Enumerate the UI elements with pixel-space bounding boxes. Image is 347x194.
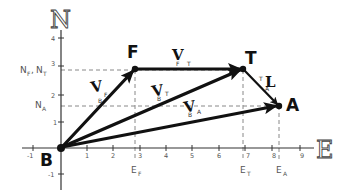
tick-label: 3 [51,60,55,68]
tick-label: 6 [217,152,221,160]
tick-label: 4 [164,152,168,160]
label-l-ta: L T A [258,73,276,92]
svg-text:T: T [42,70,47,77]
tick-label: 1 [85,152,89,160]
point-f-dot [132,66,138,72]
tick-label: 8 [272,152,276,160]
vector-bt-arrow [62,70,240,147]
tick-label: 4 [51,35,55,43]
svg-text:N: N [35,100,42,110]
point-f-label: F [127,42,139,62]
label-v-ba: V B A [181,97,202,118]
svg-text:A: A [283,170,288,177]
svg-text:T: T [258,75,263,82]
label-v-ft: V F T [171,46,191,67]
svg-text:E: E [131,165,137,175]
svg-text:E: E [240,165,246,175]
point-a-dot [276,103,282,109]
svg-text:N: N [36,65,43,75]
tick-label: 9 [300,152,304,160]
tick-label: -1 [27,152,33,160]
point-b-dot [57,144,65,152]
et-label: E T [240,165,251,177]
north-axis-label: N [50,6,71,34]
svg-text:B: B [157,95,161,102]
svg-text:V: V [88,77,104,97]
ef-label: E F [131,165,142,177]
point-b-label: B [40,150,53,170]
svg-text:F: F [104,91,108,98]
svg-text:T: T [186,60,191,67]
east-axis-label: E [316,136,334,164]
tick-label: -1 [48,171,54,179]
svg-text:F: F [176,60,180,67]
svg-text:T: T [246,170,251,177]
ea-label: E A [276,165,288,177]
nf-nt-label: N F , N T [20,65,47,77]
tick-label: 5 [190,152,194,160]
svg-text:N: N [20,65,27,75]
svg-text:,: , [31,65,34,75]
axes [22,30,314,190]
tick-label: 3 [138,152,142,160]
svg-text:A: A [197,108,202,115]
tick-label: 2 [51,92,55,100]
east-tick-labels: -1 1 2 3 4 5 6 7 8 9 [27,152,304,160]
tick-label: 1 [53,119,57,127]
vector-diagram: -1 1 2 3 4 5 6 7 8 9 4 3 2 1 -1 N E N F … [0,0,347,194]
na-label: N A [35,100,47,112]
svg-text:B: B [98,97,102,104]
svg-text:F: F [138,170,142,177]
svg-text:T: T [164,90,169,97]
tick-label: 7 [246,152,250,160]
svg-text:E: E [276,165,282,175]
point-t-label: T [245,48,257,68]
point-a-label: A [286,95,300,115]
tick-label: 2 [111,152,115,160]
svg-text:A: A [42,105,47,112]
label-v-bt: V B T [149,81,169,102]
svg-text:B: B [188,111,192,118]
